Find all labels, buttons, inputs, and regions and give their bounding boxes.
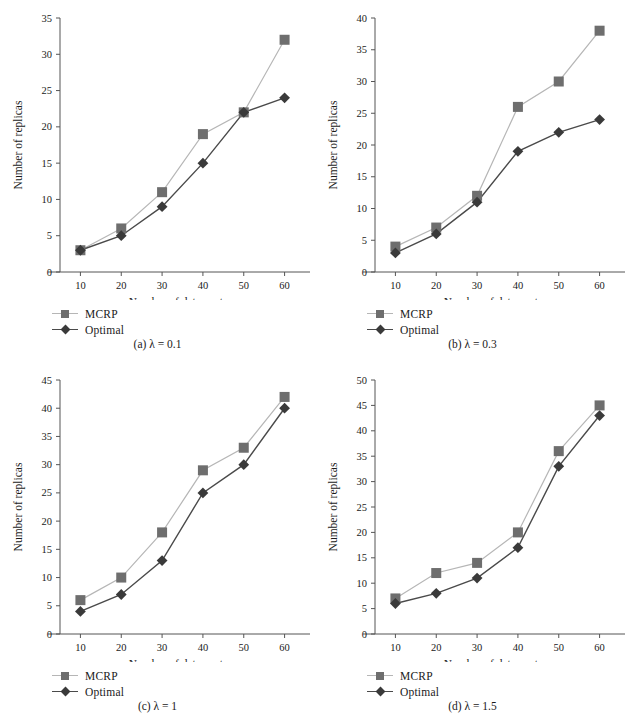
y-tick-label: 10 bbox=[42, 572, 53, 583]
y-tick-label: 15 bbox=[42, 158, 53, 169]
legend-label-mcrp: MCRP bbox=[85, 670, 118, 682]
legend-key-optimal-icon bbox=[52, 686, 78, 698]
data-point-mcrp bbox=[513, 527, 523, 537]
x-tick-label: 30 bbox=[472, 642, 483, 653]
y-tick-label: 5 bbox=[362, 603, 367, 614]
y-tick-label: 10 bbox=[357, 578, 368, 589]
x-tick-label: 20 bbox=[431, 642, 442, 653]
x-tick-label: 50 bbox=[239, 280, 250, 291]
data-point-mcrp bbox=[431, 568, 441, 578]
panel-b-caption: (b) λ = 0.3 bbox=[315, 338, 630, 350]
x-tick-label: 50 bbox=[239, 642, 250, 653]
data-point-optimal bbox=[431, 588, 442, 599]
data-point-mcrp bbox=[280, 392, 290, 402]
y-tick-label: 30 bbox=[357, 476, 368, 487]
legend-key-optimal-icon bbox=[367, 324, 393, 336]
panel-c-plot: 051015202530354045102030405060Number of … bbox=[0, 362, 315, 662]
legend-key-mcrp-icon bbox=[52, 308, 78, 320]
legend-key-optimal-icon bbox=[367, 686, 393, 698]
data-point-mcrp bbox=[595, 26, 605, 36]
legend-label-optimal: Optimal bbox=[85, 324, 124, 336]
data-point-optimal bbox=[279, 403, 290, 414]
x-axis-title: Number of data centers bbox=[129, 658, 237, 662]
legend-label-mcrp: MCRP bbox=[85, 308, 118, 320]
y-tick-label: 25 bbox=[42, 85, 53, 96]
y-tick-label: 35 bbox=[357, 451, 368, 462]
data-point-optimal bbox=[198, 487, 209, 498]
x-tick-label: 40 bbox=[513, 280, 524, 291]
y-tick-label: 5 bbox=[47, 230, 52, 241]
panel-d: 05101520253035404550102030405060Number o… bbox=[315, 356, 630, 719]
x-tick-label: 40 bbox=[198, 280, 209, 291]
panel-d-legend: MCRP Optimal bbox=[367, 668, 439, 700]
panel-c-chart: 051015202530354045102030405060Number of … bbox=[0, 362, 315, 662]
data-point-mcrp bbox=[75, 595, 85, 605]
legend-label-optimal: Optimal bbox=[85, 686, 124, 698]
data-point-mcrp bbox=[513, 102, 523, 112]
series-line-mcrp bbox=[395, 405, 599, 598]
data-point-mcrp bbox=[198, 465, 208, 475]
y-tick-label: 35 bbox=[42, 13, 53, 24]
y-tick-label: 20 bbox=[42, 121, 53, 132]
legend-label-optimal: Optimal bbox=[400, 686, 439, 698]
series-line-mcrp bbox=[80, 397, 284, 600]
panel-c-legend: MCRP Optimal bbox=[52, 668, 124, 700]
legend-key-mcrp-icon bbox=[367, 670, 393, 682]
y-tick-label: 20 bbox=[357, 527, 368, 538]
series-line-optimal bbox=[80, 98, 284, 250]
series-line-optimal bbox=[80, 408, 284, 611]
y-tick-label: 5 bbox=[362, 235, 367, 246]
y-tick-label: 5 bbox=[47, 600, 52, 611]
y-tick-label: 15 bbox=[42, 544, 53, 555]
x-tick-label: 20 bbox=[116, 280, 127, 291]
panel-a-caption: (a) λ = 0.1 bbox=[0, 338, 315, 350]
panel-a: 05101520253035102030405060Number of data… bbox=[0, 0, 315, 356]
x-tick-label: 40 bbox=[198, 642, 209, 653]
panel-b: 0510152025303540102030405060Number of da… bbox=[315, 0, 630, 356]
panel-d-caption: (d) λ = 1.5 bbox=[315, 700, 630, 712]
data-point-mcrp bbox=[554, 77, 564, 87]
data-point-mcrp bbox=[157, 187, 167, 197]
data-point-optimal bbox=[553, 127, 564, 138]
x-tick-label: 40 bbox=[513, 642, 524, 653]
data-point-mcrp bbox=[472, 558, 482, 568]
y-tick-label: 20 bbox=[357, 140, 368, 151]
y-tick-label: 30 bbox=[42, 49, 53, 60]
data-point-optimal bbox=[238, 459, 249, 470]
y-axis-title: Number of replicas bbox=[12, 100, 25, 189]
y-tick-label: 0 bbox=[47, 267, 52, 278]
x-axis-title: Number of data centers bbox=[444, 658, 552, 662]
y-tick-label: 25 bbox=[357, 502, 368, 513]
legend-item-mcrp: MCRP bbox=[367, 306, 439, 321]
panel-c-caption: (c) λ = 1 bbox=[0, 700, 315, 712]
panel-a-plot: 05101520253035102030405060Number of data… bbox=[0, 0, 315, 300]
legend-label-mcrp: MCRP bbox=[400, 670, 433, 682]
x-tick-label: 10 bbox=[390, 280, 401, 291]
y-tick-label: 50 bbox=[357, 375, 368, 386]
data-point-mcrp bbox=[198, 129, 208, 139]
data-point-optimal bbox=[513, 542, 524, 553]
legend-key-mcrp-icon bbox=[367, 308, 393, 320]
legend-item-optimal: Optimal bbox=[52, 322, 124, 337]
y-tick-label: 0 bbox=[47, 629, 52, 640]
y-axis-title: Number of replicas bbox=[12, 462, 25, 551]
legend-key-optimal-icon bbox=[52, 324, 78, 336]
series-line-mcrp bbox=[80, 40, 284, 250]
y-tick-label: 15 bbox=[357, 552, 368, 563]
data-point-mcrp bbox=[554, 446, 564, 456]
data-point-optimal bbox=[75, 606, 86, 617]
x-tick-label: 60 bbox=[279, 280, 290, 291]
x-tick-label: 20 bbox=[116, 642, 127, 653]
panel-a-chart: 05101520253035102030405060Number of data… bbox=[0, 0, 315, 300]
x-tick-label: 60 bbox=[594, 280, 605, 291]
y-tick-label: 35 bbox=[42, 431, 53, 442]
y-tick-label: 30 bbox=[357, 76, 368, 87]
y-tick-label: 40 bbox=[357, 13, 368, 24]
y-tick-label: 10 bbox=[42, 194, 53, 205]
y-tick-label: 25 bbox=[357, 108, 368, 119]
x-tick-label: 50 bbox=[554, 280, 565, 291]
y-tick-label: 40 bbox=[357, 425, 368, 436]
y-axis-title: Number of replicas bbox=[327, 462, 340, 551]
panel-c: 051015202530354045102030405060Number of … bbox=[0, 356, 315, 719]
panel-d-chart: 05101520253035404550102030405060Number o… bbox=[315, 362, 630, 662]
